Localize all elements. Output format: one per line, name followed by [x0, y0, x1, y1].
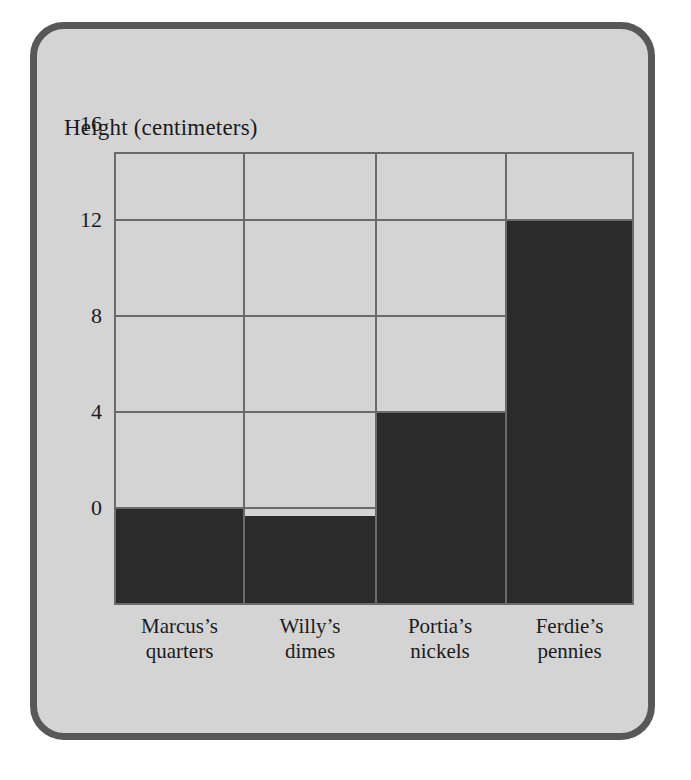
x-label-line-1: Willy’s [245, 614, 375, 639]
x-label-line-1: Marcus’s [114, 614, 245, 639]
x-label-marcus-quarters: Marcus’s quarters [114, 614, 245, 664]
chart-card: Height (centimeters) 0 4 8 12 16 Marcus’… [30, 22, 655, 740]
x-label-line-2: quarters [114, 639, 245, 664]
x-label-line-2: dimes [245, 639, 375, 664]
x-label-line-2: nickels [375, 639, 505, 664]
x-label-willy-dimes: Willy’s dimes [245, 614, 375, 664]
y-tick-label-0: 0 [42, 497, 102, 519]
y-tick-label-4: 4 [42, 401, 102, 423]
bar-portia-nickels [377, 413, 505, 605]
x-label-line-1: Portia’s [375, 614, 505, 639]
y-tick-label-12: 12 [42, 209, 102, 231]
bar-willy-dimes [245, 516, 375, 605]
x-label-portia-nickels: Portia’s nickels [375, 614, 505, 664]
bar-marcus-quarters [116, 509, 243, 605]
plot-area: Marcus’s quarters Willy’s dimes Portia’s… [114, 152, 634, 605]
y-tick-label-16: 16 [42, 113, 102, 135]
x-label-line-1: Ferdie’s [505, 614, 634, 639]
x-label-ferdie-pennies: Ferdie’s pennies [505, 614, 634, 664]
x-label-line-2: pennies [505, 639, 634, 664]
y-tick-label-8: 8 [42, 305, 102, 327]
bar-ferdie-pennies [507, 221, 632, 605]
